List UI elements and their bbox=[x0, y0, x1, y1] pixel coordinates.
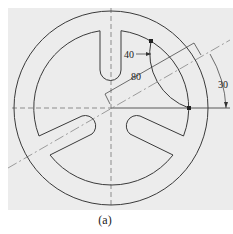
radius-arc bbox=[150, 41, 189, 108]
length-extension-1 bbox=[105, 94, 110, 104]
wheel-drawing: 40 80 30 bbox=[0, 0, 233, 210]
angle-dimension-label: 30 bbox=[218, 79, 228, 90]
radius-dimension-label: 40 bbox=[124, 49, 134, 60]
angle-arrow bbox=[224, 102, 228, 108]
length-dimension-label: 80 bbox=[131, 71, 141, 82]
arc-start-marker bbox=[149, 39, 153, 43]
radius-leader-arrow bbox=[146, 52, 151, 56]
figure-caption: (a) bbox=[0, 213, 210, 228]
arc-end-marker bbox=[187, 106, 191, 110]
length-extension-2 bbox=[194, 43, 201, 55]
angled-centerline bbox=[8, 40, 230, 168]
